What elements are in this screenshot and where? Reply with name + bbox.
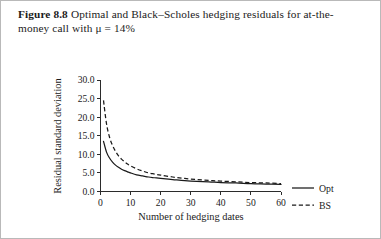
x-tick-label: 20 [156, 197, 166, 208]
figure-container: Figure 8.8Optimal and Black–Scholes hedg… [0, 0, 381, 239]
figure-number: Figure 8.8 [18, 8, 68, 20]
series-line-bs [104, 100, 281, 183]
y-axis-tick-labels: 0.05.010.015.020.025.030.0 [78, 74, 95, 196]
legend-label-opt: Opt [319, 183, 334, 194]
x-tick-label: 60 [276, 197, 286, 208]
figure-caption: Figure 8.8Optimal and Black–Scholes hedg… [18, 8, 356, 35]
series-line-opt [104, 141, 281, 184]
y-tick-label: 20.0 [78, 112, 95, 123]
x-tick-label: 0 [98, 197, 103, 208]
y-tick-label: 15.0 [78, 130, 95, 141]
x-tick-label: 10 [126, 197, 136, 208]
y-axis-title: Residual standard deviation [52, 77, 63, 193]
y-tick-label: 5.0 [83, 167, 95, 178]
y-tick-label: 25.0 [78, 93, 95, 104]
chart-legend: OptBS [292, 183, 334, 211]
y-axis-group: 0.05.010.015.020.025.030.0 [78, 74, 101, 196]
x-axis-title: Number of hedging dates [138, 211, 243, 222]
x-axis-group: 0102030405060 [98, 192, 286, 209]
y-tick-label: 30.0 [78, 74, 95, 85]
x-tick-label: 40 [216, 197, 226, 208]
legend-label-bs: BS [319, 200, 331, 211]
x-tick-label: 50 [246, 197, 256, 208]
chart-svg: 0.05.010.015.020.025.030.0 0102030405060… [1, 53, 381, 239]
y-tick-label: 10.0 [78, 149, 95, 160]
y-tick-label: 0.0 [83, 186, 95, 197]
x-tick-label: 30 [186, 197, 196, 208]
chart-plot-area: 0.05.010.015.020.025.030.0 0102030405060… [1, 53, 381, 239]
x-axis-tick-labels: 0102030405060 [98, 197, 286, 208]
